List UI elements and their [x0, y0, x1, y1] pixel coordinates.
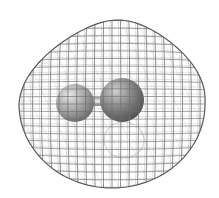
molecule — [56, 78, 144, 122]
left-atom — [56, 84, 94, 122]
molecule-render — [0, 0, 219, 198]
molecule-figure — [0, 0, 219, 198]
isosurface-front-mesh — [15, 13, 209, 195]
right-atom — [100, 78, 144, 122]
